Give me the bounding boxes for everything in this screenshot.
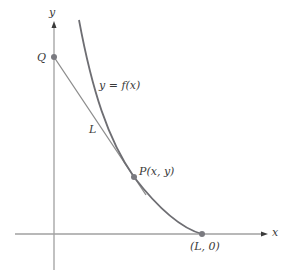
- x-axis-label: x: [272, 227, 278, 238]
- point-Q: [51, 54, 57, 60]
- diagram-canvas: [0, 0, 296, 276]
- point-L0-label: (L, 0): [190, 241, 220, 252]
- curve-label: y = f(x): [99, 80, 140, 91]
- tangent-line-label: L: [89, 124, 96, 135]
- curve-f: [79, 20, 202, 234]
- point-P-label: P(x, y): [139, 166, 174, 177]
- x-axis-arrow-icon: [261, 232, 268, 237]
- point-P: [131, 174, 137, 180]
- point-L0: [199, 231, 205, 237]
- y-axis-arrow-icon: [52, 21, 57, 28]
- y-axis-label: y: [49, 7, 55, 18]
- point-Q-label: Q: [37, 52, 46, 63]
